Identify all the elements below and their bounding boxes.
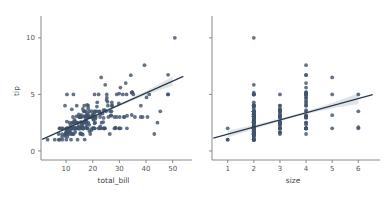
x-tick-label: 4	[304, 165, 309, 173]
y-axis-title: tip	[12, 86, 21, 96]
panel-total-bill: 10203040500510total_billtip	[0, 0, 196, 197]
x-tick-label: 5	[330, 165, 334, 173]
x-tick-label: 2	[252, 165, 256, 173]
x-tick-label: 3	[278, 165, 282, 173]
y-tick-label: 10	[26, 34, 35, 42]
x-axis-title: size	[286, 176, 301, 185]
x-tick-label: 1	[225, 165, 229, 173]
panel-size: 123456size	[196, 0, 385, 197]
x-tick-label: 6	[356, 165, 361, 173]
x-tick-label: 50	[168, 165, 177, 173]
panel-size-svg: 123456size	[196, 0, 385, 197]
x-axis-title: total_bill	[98, 176, 130, 185]
x-tick-label: 30	[115, 165, 124, 173]
x-tick-label: 20	[88, 165, 97, 173]
y-tick-label: 5	[31, 91, 35, 99]
x-tick-label: 10	[62, 165, 71, 173]
panel-total-bill-svg: 10203040500510total_billtip	[0, 0, 196, 197]
regression-figure: 10203040500510total_billtip 123456size	[0, 0, 385, 197]
x-tick-label: 40	[142, 165, 151, 173]
y-tick-label: 0	[31, 148, 35, 156]
